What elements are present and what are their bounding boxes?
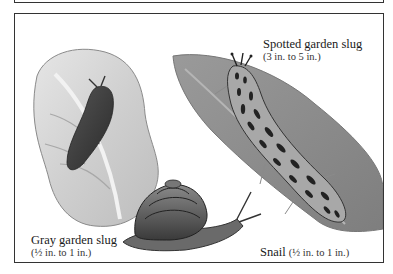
label-snail: Snail (½ in. to 1 in.) [260, 243, 349, 260]
spotted-slug-name: Spotted garden slug [263, 38, 362, 51]
snail-name: Snail [260, 245, 289, 259]
figure-frame: Spotted garden slug (3 in. to 5 in.) Gra… [14, 13, 384, 263]
gray-slug-size: (½ in. to 1 in.) [31, 247, 117, 258]
spotted-slug-size: (3 in. to 5 in.) [263, 51, 362, 62]
label-gray-garden-slug: Gray garden slug (½ in. to 1 in.) [31, 234, 117, 258]
gray-slug-name: Gray garden slug [31, 234, 117, 247]
snail-size: (½ in. to 1 in.) [289, 247, 349, 258]
previous-figure-frame [14, 0, 384, 3]
label-spotted-garden-slug: Spotted garden slug (3 in. to 5 in.) [263, 38, 362, 62]
gray-slug-on-cabbage-leaf [34, 49, 158, 226]
